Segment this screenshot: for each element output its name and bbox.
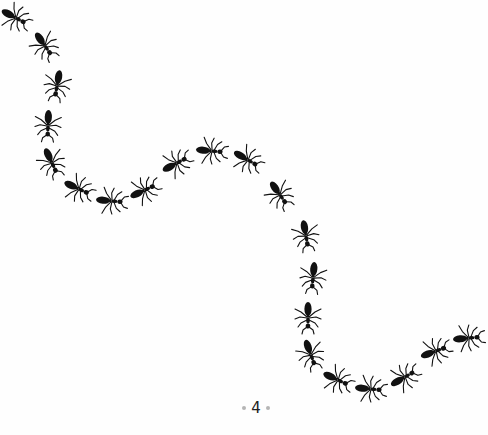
ant-icon <box>290 218 321 254</box>
ant-icon <box>295 302 321 334</box>
page-number: 4 <box>236 398 276 417</box>
ant-icon <box>157 144 197 182</box>
ants-layer <box>0 0 486 403</box>
ornament-dot-left <box>242 406 246 410</box>
ant-icon <box>417 333 456 368</box>
ant-icon <box>299 261 328 295</box>
ant-icon <box>354 375 388 404</box>
ant-icon <box>452 324 486 353</box>
ornament-dot-right <box>266 406 270 410</box>
ant-icon <box>34 110 61 143</box>
ant-icon <box>195 137 229 166</box>
page-number-text: 4 <box>251 399 261 417</box>
ant-icon <box>260 174 300 215</box>
ant-trail-illustration <box>0 0 488 435</box>
ant-icon <box>33 143 70 183</box>
ant-icon <box>385 358 426 397</box>
ant-icon <box>59 170 99 207</box>
ant-icon <box>228 141 269 180</box>
ant-icon <box>25 25 65 66</box>
ant-icon <box>41 68 72 104</box>
ant-icon <box>95 187 129 216</box>
book-page: 4 <box>0 0 488 435</box>
ant-icon <box>318 361 358 398</box>
ant-icon <box>125 171 165 208</box>
ant-icon <box>293 336 328 375</box>
ant-icon <box>0 0 36 37</box>
